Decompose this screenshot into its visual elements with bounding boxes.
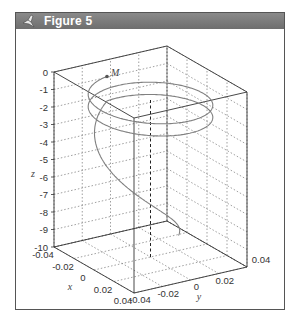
point-m-label: M xyxy=(110,67,120,78)
y-tick-label: 0.02 xyxy=(216,275,235,286)
x-tick-label: -0.04 xyxy=(32,249,54,260)
z-tick-label: -6 xyxy=(40,172,48,183)
z-tick-label: -3 xyxy=(40,119,48,130)
x-tick-label: 0.02 xyxy=(94,284,113,295)
y-tick-label: 0.04 xyxy=(252,254,271,265)
z-tick-label: -9 xyxy=(40,224,48,235)
box-edge xyxy=(54,72,134,118)
z-tick-label: -1 xyxy=(40,84,48,95)
z-tick-label: -4 xyxy=(40,137,48,148)
x-tick-label: -0.02 xyxy=(52,261,74,272)
3d-line-plot[interactable]: 0-1-2-3-4-5-6-7-8-9-10-0.04-0.0200.020.0… xyxy=(0,0,299,330)
point-m-marker xyxy=(105,75,109,79)
z-tick-label: -7 xyxy=(40,189,48,200)
y-tick-label: -0.04 xyxy=(129,294,151,305)
x-axis-label: x xyxy=(67,281,73,292)
box-edge xyxy=(134,92,247,118)
y-axis-label: y xyxy=(196,291,202,302)
z-tick-label: -8 xyxy=(40,207,48,218)
z-tick-label: -2 xyxy=(40,102,48,113)
z-tick-label: -5 xyxy=(40,154,48,165)
z-tick-label: 0 xyxy=(43,67,48,78)
z-axis-label: z xyxy=(30,168,35,179)
y-tick-label: -0.02 xyxy=(157,288,179,299)
x-tick-label: 0 xyxy=(80,272,85,283)
